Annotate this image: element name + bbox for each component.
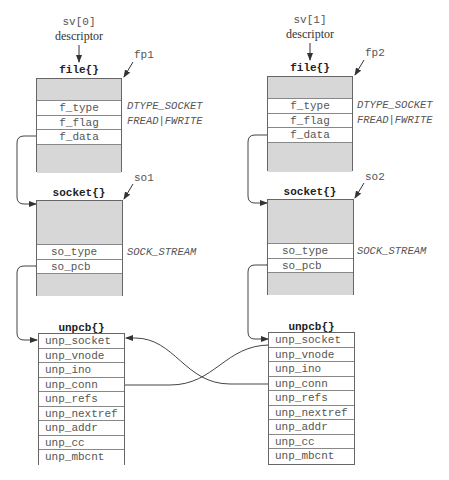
field-unp-ino: unp_ino bbox=[269, 362, 354, 377]
field-f-data: f_data bbox=[37, 130, 121, 145]
f-type-value: DTYPE_SOCKET bbox=[127, 100, 203, 112]
f-flag-value: FREAD|FWRITE bbox=[127, 115, 203, 127]
file-struct-right: f_type f_flag f_data bbox=[267, 76, 353, 171]
unpcb-struct-right: unp_socket unp_vnode unp_ino unp_conn un… bbox=[268, 332, 355, 465]
field-f-flag: f_flag bbox=[37, 116, 121, 131]
fp2-arrow bbox=[355, 60, 364, 75]
descriptor-name: sv[0] bbox=[34, 15, 124, 29]
file-struct-title: file{} bbox=[36, 64, 122, 76]
descriptor-name: sv[1] bbox=[265, 13, 355, 27]
field-unp-socket: unp_socket bbox=[39, 334, 124, 349]
field-unp-nextref: unp_nextref bbox=[269, 406, 354, 421]
field-so-pcb: so_pcb bbox=[37, 260, 122, 275]
descriptor-caption: descriptor bbox=[265, 27, 355, 41]
unp-conn-right-to-left-socket bbox=[126, 338, 271, 384]
field-unp-cc: unp_cc bbox=[269, 435, 354, 450]
field-unp-mbcnt: unp_mbcnt bbox=[39, 450, 124, 465]
unpcb-struct-left: unp_socket unp_vnode unp_ino unp_conn un… bbox=[38, 333, 125, 465]
field-unp-refs: unp_refs bbox=[269, 391, 354, 406]
socket-header-fill bbox=[37, 201, 122, 245]
field-unp-vnode: unp_vnode bbox=[269, 348, 354, 363]
field-unp-ino: unp_ino bbox=[39, 363, 124, 378]
socket-footer-fill bbox=[37, 274, 122, 296]
fp1-label: fp1 bbox=[134, 49, 154, 61]
socket-struct-left: so_type so_pcb bbox=[36, 200, 123, 296]
field-unp-conn: unp_conn bbox=[269, 377, 354, 392]
so1-label: so1 bbox=[134, 172, 154, 184]
so-type-value: SOCK_STREAM bbox=[127, 246, 196, 258]
socket-struct-right: so_type so_pcb bbox=[267, 199, 354, 295]
so1-arrow bbox=[124, 184, 133, 199]
socket-struct-title: socket{} bbox=[267, 186, 353, 198]
file-header-fill bbox=[268, 77, 352, 99]
field-unp-mbcnt: unp_mbcnt bbox=[269, 449, 354, 464]
f-flag-value: FREAD|FWRITE bbox=[357, 114, 433, 126]
field-so-type: so_type bbox=[268, 244, 353, 259]
field-unp-addr: unp_addr bbox=[269, 420, 354, 435]
so2-arrow bbox=[355, 183, 364, 198]
field-unp-vnode: unp_vnode bbox=[39, 349, 124, 364]
field-so-pcb: so_pcb bbox=[268, 259, 353, 274]
so-type-value: SOCK_STREAM bbox=[357, 245, 426, 257]
socket-header-fill bbox=[268, 200, 353, 244]
file-footer-fill bbox=[37, 145, 121, 173]
file-struct-title: file{} bbox=[267, 62, 353, 74]
socket-struct-title: socket{} bbox=[36, 187, 122, 199]
unp-conn-left-to-right-socket bbox=[122, 345, 270, 385]
file-struct-left: f_type f_flag f_data bbox=[36, 78, 122, 172]
field-unp-socket: unp_socket bbox=[269, 333, 354, 348]
field-unp-addr: unp_addr bbox=[39, 421, 124, 436]
field-unp-conn: unp_conn bbox=[39, 378, 124, 393]
descriptor-label-left: sv[0] descriptor bbox=[34, 15, 124, 43]
so-pcb-unp-socket-left bbox=[17, 266, 37, 340]
descriptor-caption: descriptor bbox=[34, 29, 124, 43]
f-type-value: DTYPE_SOCKET bbox=[357, 99, 433, 111]
socket-footer-fill bbox=[268, 273, 353, 295]
fp2-label: fp2 bbox=[365, 47, 385, 59]
field-unp-cc: unp_cc bbox=[39, 436, 124, 451]
field-unp-nextref: unp_nextref bbox=[39, 407, 124, 422]
descriptor-label-right: sv[1] descriptor bbox=[265, 13, 355, 41]
file-header-fill bbox=[37, 79, 121, 101]
field-so-type: so_type bbox=[37, 245, 122, 260]
field-f-type: f_type bbox=[268, 99, 352, 114]
field-unp-refs: unp_refs bbox=[39, 392, 124, 407]
so2-label: so2 bbox=[365, 171, 385, 183]
so-pcb-unp-socket-right bbox=[248, 265, 268, 339]
file-footer-fill bbox=[268, 143, 352, 172]
field-f-flag: f_flag bbox=[268, 114, 352, 129]
field-f-type: f_type bbox=[37, 101, 121, 116]
fp1-arrow bbox=[124, 62, 133, 77]
field-f-data: f_data bbox=[268, 128, 352, 143]
